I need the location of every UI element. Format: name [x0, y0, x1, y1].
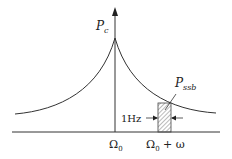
x-tick-offset: Ω0 + ω	[146, 138, 185, 153]
ssb-label: Pssb	[174, 76, 196, 92]
bandwidth-label: 1Hz	[121, 113, 141, 124]
spectrum-diagram: Pc Pssb 1Hz Ω0 Ω0 + ω	[0, 0, 232, 159]
x-tick-center: Ω0	[109, 138, 123, 153]
arrow-right-icon	[153, 116, 158, 121]
ssb-band	[158, 103, 171, 132]
arrow-left-icon	[171, 116, 176, 121]
axis-arrow-icon	[112, 7, 118, 16]
y-axis-label: Pc	[95, 19, 109, 35]
